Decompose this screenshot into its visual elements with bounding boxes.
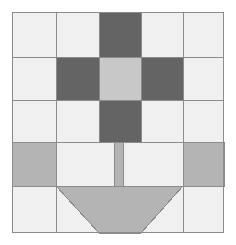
nine-patch-top-center	[99, 12, 141, 57]
nine-patch-top-left-blank	[56, 12, 99, 57]
handle-stem	[114, 142, 123, 186]
nine-patch-middle-right	[141, 57, 183, 100]
nine-patch-center	[99, 57, 141, 100]
nine-patch-bottom-center	[99, 100, 141, 142]
nine-patch-bottom-left-blank	[56, 100, 99, 142]
nine-patch-bottom-right-blank	[141, 100, 183, 142]
sash-band-left	[12, 142, 56, 186]
sash-block-right-light	[123, 142, 183, 186]
quilt-block-diagram	[0, 0, 236, 245]
nine-patch-top-right-blank	[141, 12, 183, 57]
nine-patch-middle-left	[56, 57, 99, 100]
quilt-canvas	[0, 0, 236, 245]
sash-band-right	[183, 142, 224, 186]
sash-block-left-light	[56, 142, 114, 186]
